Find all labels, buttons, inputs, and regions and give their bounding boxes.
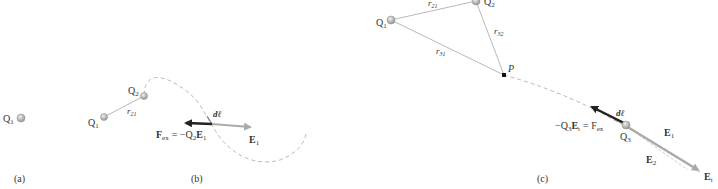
fex-equation: −Q3Et= Fex [555, 120, 604, 133]
panel-b: Q1 Q2 r21 dℓ Fex= −Q2E1 E1 (b) [88, 78, 306, 186]
q2-label: Q2 [484, 0, 495, 9]
panel-a: Q1 (a) [3, 113, 25, 185]
q2-label: Q2 [128, 85, 139, 98]
panel-c: Q1 Q2 r21 r32 r31 P dℓ Q3 −Q3Et= Fex E1 … [376, 0, 713, 185]
r31-label: r31 [436, 46, 446, 57]
caption-b: (b) [191, 173, 203, 185]
p-label: P [507, 63, 514, 74]
charge-q1 [17, 114, 25, 122]
r32-label: r32 [494, 26, 504, 37]
dl-label: dℓ [213, 109, 222, 119]
dashed-path [144, 78, 306, 162]
caption-c: (c) [537, 173, 548, 185]
force-arrow [186, 123, 212, 124]
e1-label: E1 [664, 127, 675, 140]
et-label: Et [704, 171, 713, 184]
field-arrow-et [626, 126, 698, 170]
e2-label: E2 [646, 154, 657, 167]
charge-q2 [141, 93, 148, 100]
r21-label: r21 [127, 106, 137, 117]
dl-label: dℓ [616, 108, 625, 118]
r32-line [476, 1, 504, 75]
e1-label: E1 [249, 134, 260, 147]
r21-label: r21 [428, 0, 438, 9]
q1-label: Q1 [3, 113, 14, 126]
q3-label: Q3 [620, 131, 631, 144]
dashed-path [504, 75, 700, 172]
r31-line [391, 20, 504, 75]
charge-q2 [472, 0, 480, 5]
q1-label: Q1 [376, 17, 387, 30]
charge-q1 [101, 114, 108, 121]
field-arrow-e1 [212, 124, 250, 127]
charge-q3 [622, 121, 630, 129]
point-p [502, 73, 506, 77]
r21-line [104, 96, 144, 117]
charge-q1 [387, 16, 395, 24]
q1-label: Q1 [88, 117, 99, 130]
fex-equation: Fex= −Q2E1 [156, 129, 207, 142]
electric-potential-diagram: Q1 (a) Q1 Q2 r21 dℓ Fex= −Q2E1 E1 (b) Q [0, 0, 718, 189]
caption-a: (a) [14, 173, 25, 185]
